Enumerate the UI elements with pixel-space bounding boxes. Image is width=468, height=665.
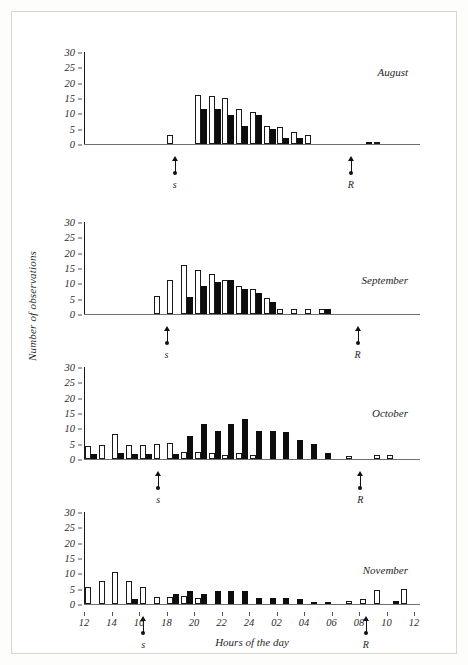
plot-area: 051015202530August [84, 52, 414, 144]
bar [154, 444, 160, 459]
bar [374, 590, 380, 604]
bar-group [84, 52, 414, 144]
bar [366, 142, 372, 144]
sunrise-label: R [350, 494, 370, 505]
y-tick-0: 0 [70, 454, 84, 465]
bar [270, 431, 276, 459]
bar [140, 587, 146, 604]
x-tick-label: 04 [291, 617, 317, 628]
marker-dot-icon [173, 171, 177, 175]
y-tick-15: 15 [65, 93, 85, 104]
y-tick-5: 5 [70, 583, 84, 594]
plot-area: 051015202530September [84, 222, 414, 314]
baseline [84, 314, 420, 315]
y-tick-0: 0 [70, 599, 84, 610]
bar [215, 431, 221, 459]
bar [374, 142, 380, 144]
bar [325, 602, 331, 604]
x-tick [387, 612, 388, 616]
bar [270, 302, 276, 314]
x-tick [194, 612, 195, 616]
bar-group [84, 512, 414, 604]
y-tick-25: 25 [65, 232, 85, 243]
y-tick-10: 10 [65, 568, 85, 579]
bar [242, 289, 248, 314]
bar [297, 599, 303, 604]
bar-group [84, 367, 414, 459]
x-tick [112, 612, 113, 616]
x-tick-label: 08 [346, 617, 372, 628]
bar [401, 589, 407, 604]
bar [187, 436, 193, 459]
y-tick-20: 20 [65, 77, 85, 88]
bar [228, 591, 234, 604]
bar-group [84, 222, 414, 314]
x-axis: 12141618202224020406081012 Hours of the … [84, 612, 420, 652]
y-tick-10: 10 [65, 423, 85, 434]
y-tick-5: 5 [70, 293, 84, 304]
x-tick [222, 612, 223, 616]
y-tick-5: 5 [70, 123, 84, 134]
x-tick-label: 24 [236, 617, 262, 628]
bar [305, 309, 311, 314]
bar [201, 424, 207, 459]
x-tick [139, 612, 140, 616]
x-tick [414, 612, 415, 616]
x-tick-label: 06 [319, 617, 345, 628]
x-axis-label: Hours of the day [84, 636, 420, 648]
bar [187, 297, 193, 314]
y-tick-20: 20 [65, 392, 85, 403]
y-tick-15: 15 [65, 553, 85, 564]
x-tick [277, 612, 278, 616]
bar [242, 419, 248, 459]
sunset-label: s [148, 494, 168, 505]
panel-title: November [363, 564, 408, 576]
bar [325, 309, 331, 314]
bar [228, 424, 234, 459]
y-tick-10: 10 [65, 108, 85, 119]
bar [311, 444, 317, 459]
sunset-label: s [157, 349, 177, 360]
bar [256, 115, 262, 144]
panel-title: October [372, 407, 408, 419]
bar [201, 286, 207, 314]
y-tick-15: 15 [65, 263, 85, 274]
bar [346, 456, 352, 459]
marker-dot-icon [156, 486, 160, 490]
bar [297, 440, 303, 459]
bar [297, 138, 303, 144]
bar [283, 138, 289, 144]
x-tick-label: 20 [181, 617, 207, 628]
bar [305, 135, 311, 144]
bar [173, 454, 179, 459]
x-tick-label: 22 [209, 617, 235, 628]
bar [228, 280, 234, 314]
y-tick-15: 15 [65, 408, 85, 419]
bar [256, 598, 262, 604]
bar [283, 432, 289, 459]
sunset-label: s [165, 179, 185, 190]
bar [85, 587, 91, 604]
bar [118, 453, 124, 459]
bar [277, 309, 283, 314]
sunrise-label: R [348, 349, 368, 360]
x-tick [304, 612, 305, 616]
bar [256, 431, 262, 459]
baseline [84, 144, 420, 145]
bar [173, 594, 179, 604]
x-tick [84, 612, 85, 616]
marker-dot-icon [356, 341, 360, 345]
bar [99, 581, 105, 604]
bar [146, 454, 152, 459]
bar [393, 601, 399, 604]
figure-page: Number of observations 051015202530Augus… [0, 0, 468, 665]
bar [167, 280, 173, 314]
bar [270, 129, 276, 144]
bar [242, 591, 248, 604]
marker-dot-icon [358, 486, 362, 490]
y-tick-0: 0 [70, 309, 84, 320]
bar [167, 135, 173, 144]
marker-dot-icon [165, 341, 169, 345]
bar [325, 453, 331, 459]
bar [215, 591, 221, 604]
